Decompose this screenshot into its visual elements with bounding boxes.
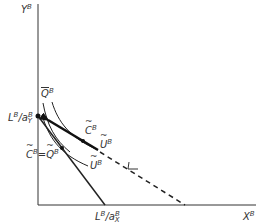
x-intercept-label: LB/aBX [95, 211, 120, 224]
right-angle-marker [128, 162, 138, 169]
diagram-canvas [0, 0, 258, 224]
point-y-intercept [36, 114, 41, 119]
u-tilde-lower-label: UB [90, 160, 102, 171]
point-c-tilde [81, 139, 85, 143]
q-bar-label: QB [41, 88, 54, 99]
point-equilibrium [60, 146, 64, 150]
trade-line-dashed [100, 152, 185, 205]
y-intercept-label: LB/aBY [8, 112, 32, 125]
y-axis-label: YB [21, 4, 32, 15]
c-tilde-label: CB [85, 125, 97, 136]
u-tilde-upper-label: UB [100, 139, 112, 150]
x-axis-label: XB [243, 211, 255, 222]
equilibrium-label: CB=QB [26, 149, 59, 160]
